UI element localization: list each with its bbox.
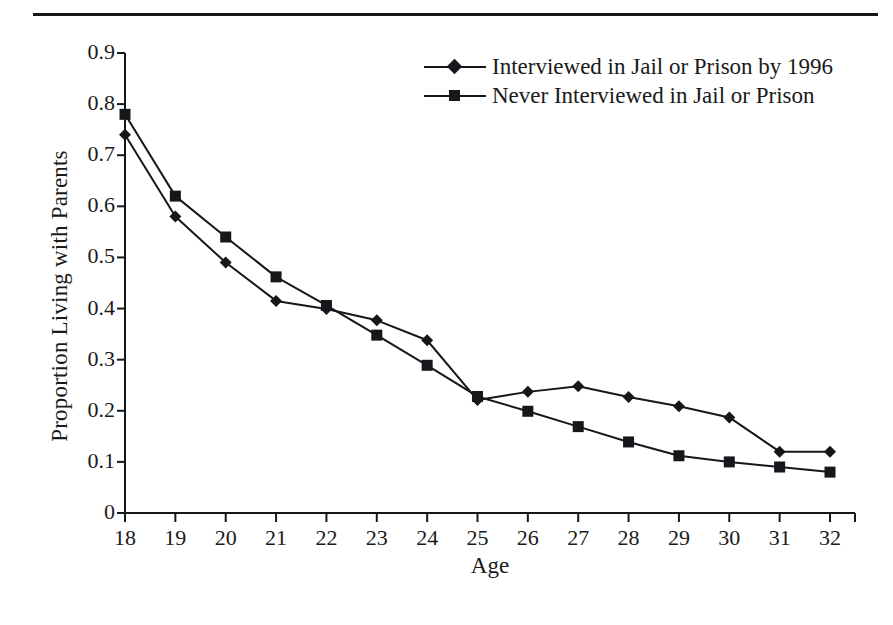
legend-square-marker-icon: [424, 86, 486, 106]
data-point-square: [573, 421, 584, 432]
data-point-square: [120, 109, 131, 120]
y-tick-label: 0.6: [51, 194, 115, 216]
data-point-square: [724, 456, 735, 467]
data-point-square: [673, 450, 684, 461]
legend-item-never-interviewed: Never Interviewed in Jail or Prison: [424, 81, 833, 110]
x-tick-label: 21: [252, 527, 300, 549]
x-tick-label: 19: [151, 527, 199, 549]
data-point-square: [774, 462, 785, 473]
x-axis-title: Age: [125, 553, 855, 579]
legend-diamond-marker-icon: [424, 57, 486, 77]
y-tick-label: 0: [51, 501, 115, 523]
data-point-square: [522, 406, 533, 417]
data-point-square: [472, 391, 483, 402]
x-tick-label: 30: [705, 527, 753, 549]
data-point-square: [623, 436, 634, 447]
line-chart-figure: Proportion Living with Parents Age 00.10…: [0, 0, 893, 625]
y-tick-label: 0.3: [51, 348, 115, 370]
series-line-2: [125, 114, 830, 472]
data-point-diamond: [522, 386, 534, 398]
data-point-diamond: [623, 391, 635, 403]
y-tick-label: 0.4: [51, 297, 115, 319]
data-point-diamond: [774, 446, 786, 458]
data-point-diamond: [572, 380, 584, 392]
x-tick-label: 20: [202, 527, 250, 549]
data-point-diamond: [673, 400, 685, 412]
data-point-square: [220, 232, 231, 243]
y-tick-label: 0.5: [51, 245, 115, 267]
data-point-square: [321, 300, 332, 311]
x-tick-label: 18: [101, 527, 149, 549]
x-tick-label: 26: [504, 527, 552, 549]
x-tick-label: 31: [756, 527, 804, 549]
data-point-square: [825, 467, 836, 478]
legend-item-interviewed: Interviewed in Jail or Prison by 1996: [424, 52, 833, 81]
data-point-square: [170, 191, 181, 202]
data-point-square: [371, 330, 382, 341]
x-tick-label: 27: [554, 527, 602, 549]
y-tick-label: 0.2: [51, 399, 115, 421]
chart-legend: Interviewed in Jail or Prison by 1996 Ne…: [424, 52, 833, 110]
legend-label-never-interviewed: Never Interviewed in Jail or Prison: [492, 84, 815, 108]
x-tick-label: 32: [806, 527, 854, 549]
x-tick-label: 28: [605, 527, 653, 549]
x-tick-label: 22: [302, 527, 350, 549]
data-point-diamond: [371, 314, 383, 326]
y-tick-label: 0.9: [51, 41, 115, 63]
data-point-diamond: [824, 446, 836, 458]
x-tick-label: 29: [655, 527, 703, 549]
data-point-diamond: [723, 411, 735, 423]
x-tick-label: 24: [403, 527, 451, 549]
y-tick-label: 0.8: [51, 92, 115, 114]
y-tick-label: 0.7: [51, 143, 115, 165]
x-tick-label: 23: [353, 527, 401, 549]
x-tick-label: 25: [454, 527, 502, 549]
legend-label-interviewed: Interviewed in Jail or Prison by 1996: [492, 55, 833, 79]
data-point-diamond: [119, 129, 131, 141]
data-point-square: [422, 360, 433, 371]
y-tick-label: 0.1: [51, 450, 115, 472]
data-point-square: [271, 271, 282, 282]
